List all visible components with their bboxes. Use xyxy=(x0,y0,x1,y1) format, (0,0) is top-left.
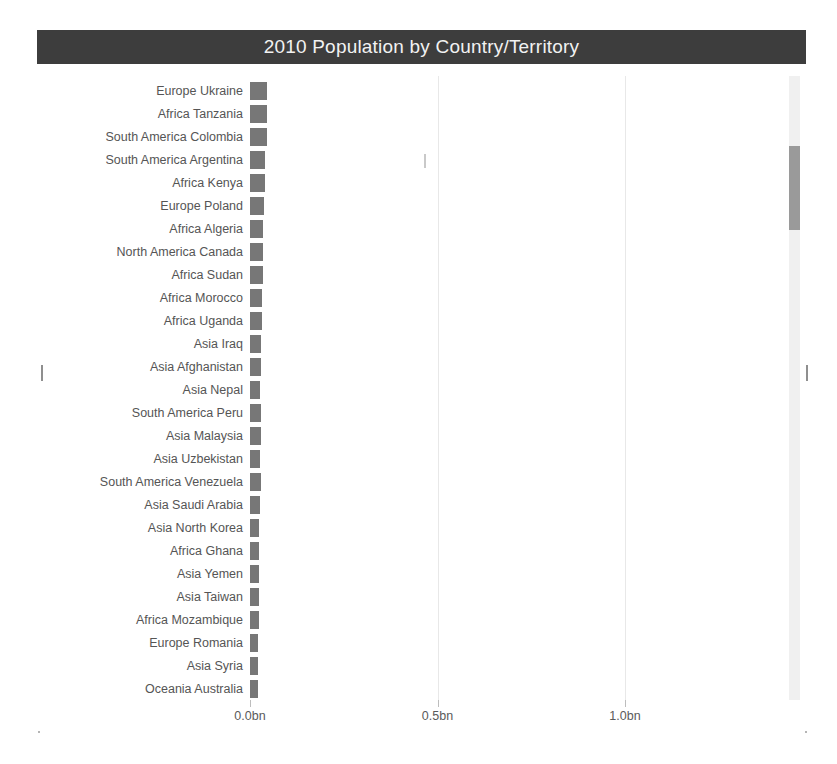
category-label: Oceania Australia xyxy=(0,682,243,697)
bar[interactable] xyxy=(250,82,267,100)
bar-row[interactable]: North America Canada xyxy=(0,241,837,264)
bar[interactable] xyxy=(250,151,265,169)
category-label: South America Argentina xyxy=(0,153,243,168)
bar-row[interactable]: Africa Mozambique xyxy=(0,609,837,632)
bar[interactable] xyxy=(250,266,263,284)
category-label: Europe Ukraine xyxy=(0,84,243,99)
bar[interactable] xyxy=(250,358,261,376)
category-label: Asia North Korea xyxy=(0,521,243,536)
bar[interactable] xyxy=(250,105,267,123)
bar-row[interactable]: Asia Nepal xyxy=(0,379,837,402)
bar-row[interactable]: Asia Saudi Arabia xyxy=(0,494,837,517)
category-label: Africa Uganda xyxy=(0,314,243,329)
category-label: South America Colombia xyxy=(0,130,243,145)
x-axis-tick-mark xyxy=(250,700,251,707)
category-label: Europe Romania xyxy=(0,636,243,651)
x-axis: 0.0bn0.5bn1.0bn xyxy=(0,700,837,730)
bar-row[interactable]: Asia Afghanistan xyxy=(0,356,837,379)
bar-row[interactable]: Asia Yemen xyxy=(0,563,837,586)
bar[interactable] xyxy=(250,611,259,629)
category-label: Asia Iraq xyxy=(0,337,243,352)
bar-row[interactable]: Africa Kenya xyxy=(0,172,837,195)
bar-row[interactable]: South America Venezuela xyxy=(0,471,837,494)
chart-title-bar: 2010 Population by Country/Territory xyxy=(37,30,806,64)
bar-row[interactable]: Africa Sudan xyxy=(0,264,837,287)
bar-row[interactable]: Asia Iraq xyxy=(0,333,837,356)
x-axis-tick-label: 0.5bn xyxy=(398,709,478,723)
bar-row[interactable]: Asia North Korea xyxy=(0,517,837,540)
category-label: Africa Mozambique xyxy=(0,613,243,628)
category-label: Asia Yemen xyxy=(0,567,243,582)
bar[interactable] xyxy=(250,427,261,445)
bar[interactable] xyxy=(250,634,258,652)
resize-handle-right[interactable] xyxy=(806,365,808,381)
bar[interactable] xyxy=(250,197,264,215)
bar[interactable] xyxy=(250,243,263,261)
population-bar-chart-visual: 2010 Population by Country/Territory Eur… xyxy=(0,0,837,764)
bar-row[interactable]: Africa Tanzania xyxy=(0,103,837,126)
x-axis-tick-label: 0.0bn xyxy=(210,709,290,723)
bar[interactable] xyxy=(250,565,259,583)
bar[interactable] xyxy=(250,657,258,675)
bar-row[interactable]: Asia Malaysia xyxy=(0,425,837,448)
bar-row[interactable]: Asia Taiwan xyxy=(0,586,837,609)
plot-area: Europe UkraineAfrica TanzaniaSouth Ameri… xyxy=(0,76,837,700)
bar-row[interactable]: Africa Morocco xyxy=(0,287,837,310)
category-label: Asia Saudi Arabia xyxy=(0,498,243,513)
bar[interactable] xyxy=(250,312,262,330)
bar[interactable] xyxy=(250,473,261,491)
category-label: South America Venezuela xyxy=(0,475,243,490)
bar[interactable] xyxy=(250,220,263,238)
bar[interactable] xyxy=(250,496,260,514)
bar-row[interactable]: Asia Syria xyxy=(0,655,837,678)
bar[interactable] xyxy=(250,289,262,307)
category-label: Africa Kenya xyxy=(0,176,243,191)
x-axis-tick-mark xyxy=(625,700,626,707)
category-label: Asia Malaysia xyxy=(0,429,243,444)
bar[interactable] xyxy=(250,174,265,192)
category-label: Asia Taiwan xyxy=(0,590,243,605)
category-label: Africa Sudan xyxy=(0,268,243,283)
resize-handle-bottom-left[interactable] xyxy=(38,731,40,733)
category-label: South America Peru xyxy=(0,406,243,421)
category-label: Asia Syria xyxy=(0,659,243,674)
bar-row[interactable]: Asia Uzbekistan xyxy=(0,448,837,471)
x-axis-tick-mark xyxy=(438,700,439,707)
category-label: Africa Morocco xyxy=(0,291,243,306)
bar-row[interactable]: Oceania Australia xyxy=(0,678,837,701)
category-label: Asia Uzbekistan xyxy=(0,452,243,467)
category-label: Africa Algeria xyxy=(0,222,243,237)
page-title: 2010 Population by Country/Territory xyxy=(264,36,580,58)
bar[interactable] xyxy=(250,450,260,468)
bar-row[interactable]: South America Argentina xyxy=(0,149,837,172)
x-axis-tick-label: 1.0bn xyxy=(585,709,665,723)
bar[interactable] xyxy=(250,588,259,606)
category-label: Asia Nepal xyxy=(0,383,243,398)
bar-row[interactable]: Europe Poland xyxy=(0,195,837,218)
bar[interactable] xyxy=(250,335,261,353)
bar-row[interactable]: South America Peru xyxy=(0,402,837,425)
bar-row[interactable]: Europe Ukraine xyxy=(0,80,837,103)
bar-row[interactable]: Africa Algeria xyxy=(0,218,837,241)
category-label: Africa Tanzania xyxy=(0,107,243,122)
bar-row[interactable]: Africa Uganda xyxy=(0,310,837,333)
bar[interactable] xyxy=(250,381,260,399)
bar-row[interactable]: Europe Romania xyxy=(0,632,837,655)
resize-handle-left[interactable] xyxy=(41,365,43,381)
bar[interactable] xyxy=(250,128,267,146)
category-label: Africa Ghana xyxy=(0,544,243,559)
bar-row[interactable]: South America Colombia xyxy=(0,126,837,149)
category-label: Europe Poland xyxy=(0,199,243,214)
vertical-scrollbar-track[interactable] xyxy=(789,76,800,700)
bar[interactable] xyxy=(250,519,259,537)
bar[interactable] xyxy=(250,404,261,422)
category-label: Asia Afghanistan xyxy=(0,360,243,375)
vertical-scrollbar-thumb[interactable] xyxy=(789,146,800,230)
bar-row[interactable]: Africa Ghana xyxy=(0,540,837,563)
bar[interactable] xyxy=(250,542,259,560)
bar[interactable] xyxy=(250,680,258,698)
category-label: North America Canada xyxy=(0,245,243,260)
resize-handle-bottom-right[interactable] xyxy=(805,731,807,733)
